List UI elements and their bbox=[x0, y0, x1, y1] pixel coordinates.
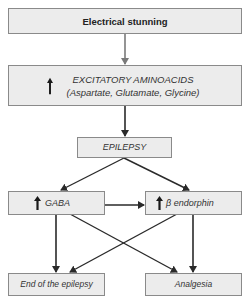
node-excitatory-aminoacids: EXCITATORY AMINOACIDS (Aspartate, Glutam… bbox=[8, 65, 242, 106]
increase-arrow-icon bbox=[156, 196, 163, 210]
increase-arrow-icon bbox=[47, 75, 53, 97]
node-end-of-epilepsy: End of the epilepsy bbox=[8, 273, 105, 296]
arrow-epilepsy-to-endorphin bbox=[124, 158, 189, 190]
node-epilepsy: EPILEPSY bbox=[77, 137, 172, 158]
increase-arrow-icon bbox=[34, 196, 41, 210]
node-label: EXCITATORY AMINOACIDS bbox=[66, 74, 199, 85]
node-gaba: GABA bbox=[8, 191, 105, 215]
node-label: Analgesia bbox=[175, 279, 212, 290]
node-electrical-stunning: Electrical stunning bbox=[8, 8, 242, 34]
node-label: GABA bbox=[45, 198, 70, 209]
node-label: β endorphin bbox=[166, 198, 214, 209]
node-analgesia: Analgesia bbox=[145, 273, 242, 296]
node-label: EPILEPSY bbox=[103, 142, 147, 153]
node-beta-endorphin: β endorphin bbox=[145, 191, 242, 215]
node-label: End of the epilepsy bbox=[20, 279, 92, 290]
node-label: Electrical stunning bbox=[83, 16, 168, 27]
node-sublabel: (Aspartate, Glutamate, Glycine) bbox=[66, 87, 199, 98]
arrow-epilepsy-to-gaba bbox=[61, 158, 124, 190]
